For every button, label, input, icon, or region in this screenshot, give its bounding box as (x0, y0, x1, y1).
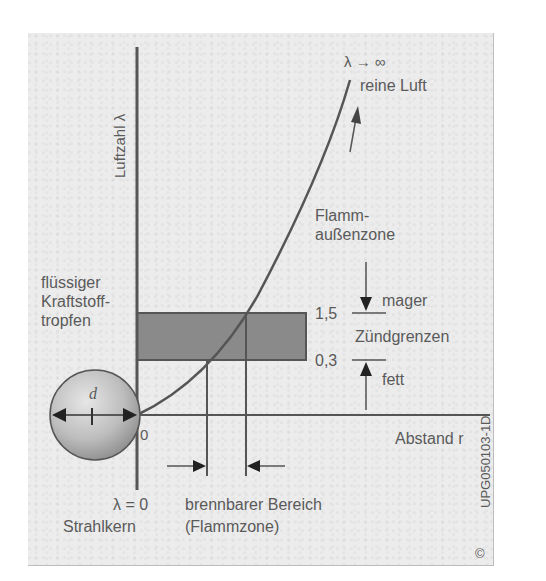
origin-label: 0 (140, 425, 148, 444)
outer-zone-label-line1: Flamm- (315, 206, 369, 225)
rich-label: fett (382, 370, 404, 389)
curve-direction-arrow (350, 118, 356, 152)
y-axis-label: Luftzahl λ (110, 114, 129, 178)
burn-range-label-line2: (Flammzone) (185, 517, 279, 536)
droplet-diameter-label: d (89, 384, 97, 403)
droplet-label-line1: flüssiger (41, 273, 101, 292)
figure-code: UPG050103-1D (476, 416, 495, 509)
lean-label: mager (382, 291, 427, 310)
lean-arrowhead-icon (360, 297, 372, 311)
droplet-label-line2: Kraftstoff- (41, 292, 110, 311)
burn-range-left-arrowhead-icon (193, 460, 206, 472)
outer-zone-label-line2: außenzone (315, 225, 395, 244)
ignition-limit-band (137, 313, 306, 360)
burn-range-right-arrowhead-icon (247, 460, 260, 472)
lambda-infinity-label: λ → ∞ (344, 52, 386, 71)
ignition-limits-label: Zündgrenzen (355, 327, 449, 346)
copyright-icon: © (475, 544, 485, 563)
curve-direction-arrowhead-icon (351, 106, 361, 124)
burn-range-label-line1: brennbarer Bereich (185, 495, 322, 514)
droplet-label-line3: tropfen (41, 311, 91, 330)
core-label: Strahlkern (63, 517, 136, 536)
x-axis-label: Abstand r (395, 429, 463, 448)
rich-arrowhead-icon (360, 362, 372, 376)
lower-limit-value: 0,3 (315, 351, 337, 370)
pure-air-label: reine Luft (360, 76, 427, 95)
upper-limit-value: 1,5 (315, 304, 337, 323)
core-lambda-label: λ = 0 (113, 495, 148, 514)
